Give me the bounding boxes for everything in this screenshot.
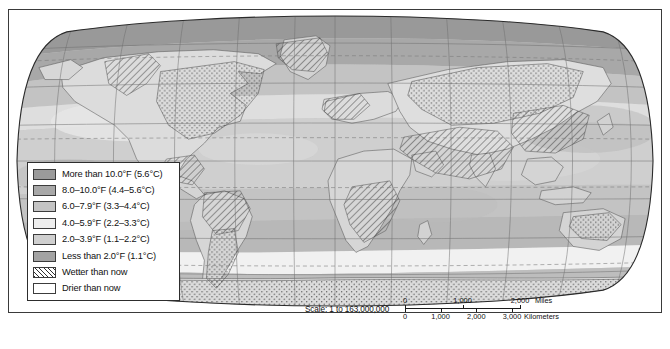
legend-label: 8.0–10.0°F (4.4–5.6°C) xyxy=(62,185,155,196)
scale-bar-graphic: 0 1,000 2,000 Miles 0 1,000 2,000 3,000 xyxy=(405,297,565,319)
legend-swatch-2-to-39f xyxy=(33,234,56,245)
legend-item: Drier than now xyxy=(33,281,175,297)
legend-item: Wetter than now xyxy=(33,264,175,280)
legend-item: 6.0–7.9°F (3.3–4.4°C) xyxy=(33,199,175,215)
legend-swatch-8-to-10f xyxy=(33,185,56,196)
map-figure: More than 10.0°F (5.6°C) 8.0–10.0°F (4.4… xyxy=(0,0,670,349)
scale-unit-miles: Miles xyxy=(535,296,552,305)
legend-item: Less than 2.0°F (1.1°C) xyxy=(33,248,175,264)
legend-label: 6.0–7.9°F (3.3–4.4°C) xyxy=(62,201,150,212)
legend-label: 4.0–5.9°F (2.2–3.3°C) xyxy=(62,218,150,229)
scale-ratio-text: Scale: 1 to 163,000,000 xyxy=(305,305,389,314)
legend-item: 2.0–3.9°F (1.1–2.2°C) xyxy=(33,232,175,248)
legend-label: Less than 2.0°F (1.1°C) xyxy=(62,251,156,262)
legend-swatch-more-than-10f xyxy=(33,169,56,180)
legend-item: 4.0–5.9°F (2.2–3.3°C) xyxy=(33,215,175,231)
legend-swatch-6-to-79f xyxy=(33,201,56,212)
legend-swatch-wetter xyxy=(33,267,56,278)
map-legend: More than 10.0°F (5.6°C) 8.0–10.0°F (4.4… xyxy=(27,162,180,301)
scale-unit-kilometers: Kilometers xyxy=(524,312,559,321)
legend-item: 8.0–10.0°F (4.4–5.6°C) xyxy=(33,182,175,198)
legend-label: More than 10.0°F (5.6°C) xyxy=(62,169,162,180)
legend-swatch-drier xyxy=(33,283,56,294)
legend-swatch-less-than-2f xyxy=(33,251,56,262)
legend-swatch-4-to-59f xyxy=(33,218,56,229)
scale-tick-km-0: 0 xyxy=(403,312,407,321)
legend-label: 2.0–3.9°F (1.1–2.2°C) xyxy=(62,234,150,245)
map-scale-bar: Scale: 1 to 163,000,000 0 1,000 2,000 Mi… xyxy=(305,297,595,319)
scale-tick-km-2000: 2,000 xyxy=(467,312,486,321)
legend-label: Wetter than now xyxy=(62,267,127,278)
legend-label: Drier than now xyxy=(62,283,120,294)
scale-tick-km-3000: 3,000 xyxy=(503,312,522,321)
legend-item: More than 10.0°F (5.6°C) xyxy=(33,166,175,182)
scale-tick-km-1000: 1,000 xyxy=(431,312,450,321)
